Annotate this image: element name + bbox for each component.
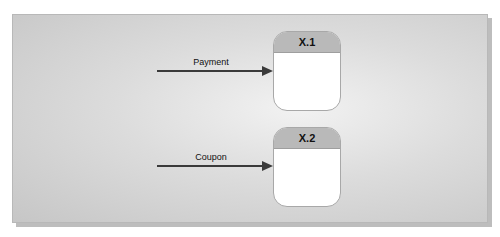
- flow-arrows: [0, 0, 500, 237]
- flow-arrow-payment: [157, 66, 273, 76]
- flow-arrow-coupon: [157, 161, 273, 171]
- process-x1-id: X.1: [274, 32, 340, 53]
- process-x1: X.1: [273, 31, 341, 111]
- process-x2-id: X.2: [274, 128, 340, 149]
- process-x2: X.2: [273, 127, 341, 207]
- flow-label-coupon: Coupon: [171, 152, 251, 162]
- flow-label-payment: Payment: [171, 57, 251, 67]
